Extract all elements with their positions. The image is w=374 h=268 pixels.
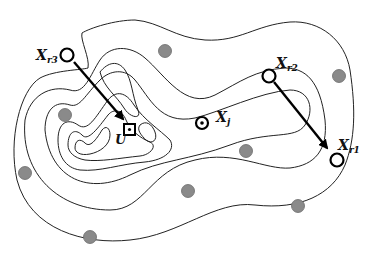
- contour-3: [45, 72, 310, 184]
- sample-point: [19, 167, 32, 180]
- contour-2: [25, 48, 326, 210]
- label-xr3: Xr3: [35, 47, 58, 65]
- diagram-canvas: Xr3 Xr2 Xr1 Xj U: [0, 0, 374, 268]
- sample-point: [240, 145, 253, 158]
- point-xr3: [61, 49, 74, 62]
- sample-point: [84, 231, 97, 244]
- arrows: [74, 62, 327, 148]
- point-xr2: [263, 70, 276, 83]
- sample-point: [59, 109, 72, 122]
- sample-point: [292, 200, 305, 213]
- label-xr1: Xr1: [337, 137, 360, 155]
- sample-point: [159, 45, 172, 58]
- arrow-xr3-to-u: [74, 62, 123, 119]
- label-xj: Xj: [215, 109, 231, 127]
- point-xj: [196, 117, 208, 129]
- contour-6: [75, 128, 110, 155]
- sample-point: [333, 70, 346, 83]
- point-xr1: [331, 154, 344, 167]
- sample-point: [182, 185, 195, 198]
- label-xr2: Xr2: [275, 55, 298, 73]
- label-u: U: [115, 132, 127, 147]
- contour-5: [68, 111, 153, 161]
